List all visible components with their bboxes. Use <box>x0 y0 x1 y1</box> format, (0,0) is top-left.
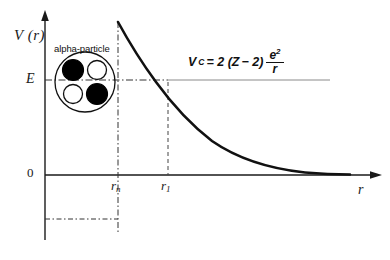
nucleon-neutron-top-right <box>88 61 107 80</box>
tick-r1-subscript: 1 <box>166 184 171 194</box>
alpha-particle-illustration <box>55 52 115 112</box>
nucleon-neutron-bottom-left <box>64 85 83 104</box>
origin-zero-label: 0 <box>27 166 34 179</box>
y-axis-arrowhead <box>41 10 49 21</box>
tick-label-turning-point: r1 <box>161 179 171 194</box>
formula-symbol-subscript: C <box>198 57 204 67</box>
y-axis-label: V (r) <box>14 28 45 43</box>
nucleon-proton-bottom-right <box>87 84 108 105</box>
tick-rn-subscript: n <box>116 184 121 194</box>
energy-level-label: E <box>26 72 35 86</box>
formula-numerator-exponent: 2 <box>276 47 280 56</box>
tick-label-nuclear-radius: rn <box>111 179 121 194</box>
alpha-decay-potential-figure: V (r) r E 0 rn r1 alpha-particle VC = 2 … <box>0 0 390 260</box>
alpha-particle-caption: alpha-particle <box>54 44 110 54</box>
figure-canvas <box>0 0 390 260</box>
formula-denominator: r <box>270 63 281 76</box>
alpha-particle-outer-circle <box>55 52 115 112</box>
formula-equals-part: = 2 (Z <box>206 55 239 69</box>
nucleon-proton-top-left <box>63 60 84 81</box>
x-axis-label: r <box>358 183 363 197</box>
formula-numerator: e2 <box>266 48 283 62</box>
coulomb-barrier-curve <box>118 22 350 175</box>
formula-symbol: V <box>188 55 196 69</box>
formula-fraction: e2 r <box>266 48 283 76</box>
coulomb-potential-formula: VC = 2 (Z − 2) e2 r <box>188 48 284 76</box>
x-axis-arrowhead <box>370 171 382 179</box>
formula-minus-part: − 2) <box>241 55 263 69</box>
